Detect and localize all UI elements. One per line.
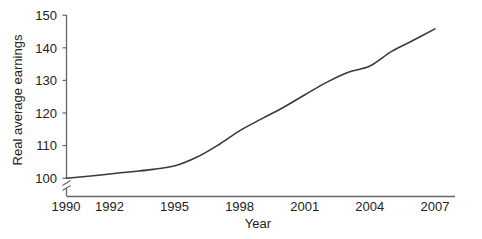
x-tick-label-1998: 1998 [225, 199, 254, 214]
x-tick-label-1990: 1990 [52, 199, 81, 214]
y-tick-label-110: 110 [36, 138, 57, 153]
x-axis-title: Year [245, 216, 272, 231]
x-tick-label-1992: 1992 [95, 199, 124, 214]
y-tick-label-100: 100 [35, 171, 57, 186]
y-tick-label-140: 140 [35, 41, 57, 56]
x-tick-label-1995: 1995 [160, 199, 189, 214]
x-tick-label-2001: 2001 [290, 199, 319, 214]
y-axis-title: Real average earnings [10, 34, 25, 165]
x-tick-label-2004: 2004 [355, 199, 384, 214]
y-tick-label-130: 130 [35, 73, 57, 88]
data-line-real-average-earnings [67, 29, 436, 178]
x-tick-label-2007: 2007 [420, 199, 449, 214]
y-tick-label-120: 120 [35, 106, 57, 121]
chart-canvas: 150 140 130 120 110 100 1990 1992 1995 1… [0, 0, 482, 239]
chart-figure: 150 140 130 120 110 100 1990 1992 1995 1… [0, 0, 482, 239]
y-tick-label-150: 150 [35, 8, 57, 23]
